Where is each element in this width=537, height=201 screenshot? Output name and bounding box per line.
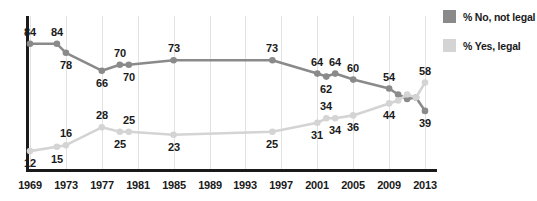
data-point — [413, 94, 420, 101]
data-point — [422, 79, 429, 86]
value-label: 70 — [116, 71, 142, 83]
data-point — [350, 76, 357, 83]
data-point — [404, 91, 411, 98]
data-point — [126, 61, 133, 68]
value-label: 44 — [376, 109, 402, 121]
data-point — [350, 112, 357, 119]
x-tick-2013: 2013 — [405, 179, 445, 191]
legend-item-yes-legal[interactable]: % Yes, legal — [443, 39, 535, 52]
value-label: 34 — [313, 100, 339, 112]
value-label: 15 — [44, 153, 70, 165]
data-point — [54, 143, 61, 150]
data-point — [99, 67, 106, 74]
value-label: 12 — [17, 157, 43, 169]
chart-root: 8484786670707373646264605439121516282525… — [0, 0, 537, 201]
value-label: 23 — [161, 141, 187, 153]
x-tick-2009: 2009 — [369, 179, 409, 191]
value-label: 73 — [161, 42, 187, 54]
value-label: 84 — [44, 26, 70, 38]
legend-label: % Yes, legal — [463, 40, 521, 52]
data-point — [117, 61, 124, 68]
legend-item-no-not-legal[interactable]: % No, not legal — [443, 10, 535, 23]
data-point — [170, 131, 177, 138]
data-point — [269, 129, 276, 136]
value-label: 36 — [340, 121, 366, 133]
value-label: 66 — [89, 77, 115, 89]
legend-swatch-icon — [443, 10, 456, 23]
x-tick-1985: 1985 — [154, 179, 194, 191]
data-point — [395, 91, 402, 98]
data-point — [386, 100, 393, 107]
value-label: 62 — [313, 83, 339, 95]
x-tick-2001: 2001 — [297, 179, 337, 191]
value-label: 25 — [259, 138, 285, 150]
data-point — [332, 70, 339, 77]
data-point — [170, 57, 177, 64]
x-tick-1997: 1997 — [261, 179, 301, 191]
data-point — [323, 73, 330, 80]
value-label: 73 — [259, 42, 285, 54]
data-point — [99, 124, 106, 131]
chart-legend: % No, not legal% Yes, legal — [443, 10, 535, 68]
data-point — [27, 41, 34, 48]
data-point — [63, 50, 70, 57]
x-tick-1969: 1969 — [10, 179, 50, 191]
series-yes-legal — [27, 79, 429, 154]
x-tick-1993: 1993 — [225, 179, 265, 191]
value-label: 28 — [89, 109, 115, 121]
x-tick-1973: 1973 — [46, 179, 86, 191]
data-point — [314, 70, 321, 77]
legend-label: % No, not legal — [463, 11, 535, 23]
data-point — [27, 148, 34, 155]
data-point — [332, 115, 339, 122]
series-no-not-legal — [27, 41, 429, 115]
data-point — [395, 97, 402, 104]
data-point — [126, 129, 133, 136]
data-point — [422, 108, 429, 115]
data-point — [54, 41, 61, 48]
data-point — [323, 115, 330, 122]
value-label: 58 — [412, 65, 438, 77]
value-label: 25 — [107, 138, 133, 150]
x-tick-1981: 1981 — [118, 179, 158, 191]
data-point — [117, 129, 124, 136]
data-point — [63, 142, 70, 149]
value-label: 39 — [412, 117, 438, 129]
value-label: 25 — [116, 114, 142, 126]
value-label: 60 — [340, 62, 366, 74]
value-label: 54 — [376, 71, 402, 83]
x-tick-1977: 1977 — [82, 179, 122, 191]
data-point — [269, 57, 276, 64]
data-point — [314, 120, 321, 127]
value-label: 84 — [17, 26, 43, 38]
value-label: 16 — [53, 127, 79, 139]
data-point — [386, 85, 393, 92]
legend-swatch-icon — [443, 39, 456, 52]
x-tick-1989: 1989 — [190, 179, 230, 191]
value-label: 70 — [107, 47, 133, 59]
value-label: 78 — [53, 59, 79, 71]
x-tick-2005: 2005 — [333, 179, 373, 191]
